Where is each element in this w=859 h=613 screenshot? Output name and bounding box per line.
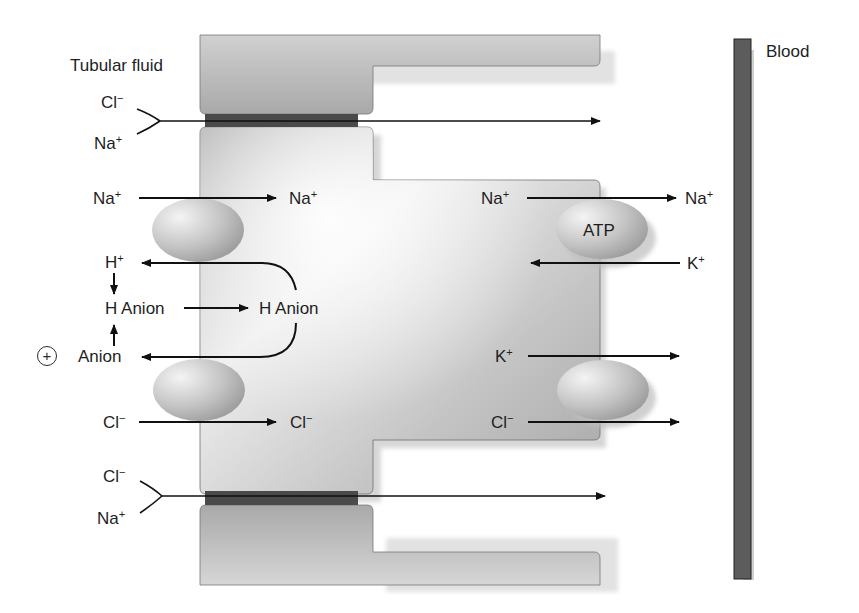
ion-na-blood: Na+ [685, 190, 713, 207]
h-anion-cell: H Anion [259, 300, 319, 317]
ion-na-paracellular-top: Na+ [94, 135, 122, 152]
blood-label: Blood [766, 43, 809, 60]
neighbor-cell-bottom [200, 505, 618, 592]
apical-na-channel-protein [152, 198, 244, 262]
ion-na-cell: Na+ [289, 190, 317, 207]
ion-na-lumen: Na+ [93, 190, 121, 207]
ion-h-lumen: H+ [105, 254, 124, 271]
ion-k-cell: K+ [495, 348, 513, 365]
ion-k-blood: K+ [687, 255, 705, 272]
ion-cl-paracellular-bottom: Cl− [103, 468, 126, 485]
tight-junction-bottom [205, 491, 358, 505]
h-anion-lumen: H Anion [105, 300, 165, 317]
tubular-fluid-label: Tubular fluid [70, 57, 163, 74]
ion-cl-paracellular-top: Cl− [101, 94, 124, 111]
apical-cl-channel-protein [153, 359, 245, 421]
ion-na-cell-basolateral: Na+ [481, 190, 509, 207]
ion-na-paracellular-bottom: Na+ [97, 510, 125, 527]
positive-charge-icon: + [37, 346, 57, 366]
ion-cl-cell-basolateral: Cl− [491, 414, 514, 431]
ion-cl-lumen: Cl− [103, 414, 126, 431]
neighbor-cell-top [200, 35, 615, 114]
basolateral-kcl-channel-protein [557, 360, 649, 420]
ion-cl-cell: Cl− [290, 414, 313, 431]
anion-lumen: Anion [78, 348, 121, 365]
atp-label: ATP [583, 222, 615, 239]
blood-vessel-wall [734, 39, 754, 580]
